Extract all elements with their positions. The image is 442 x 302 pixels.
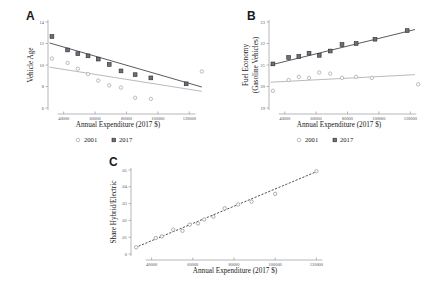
- data-point-share-hybrid-electric: [236, 203, 239, 206]
- data-point-2001: [76, 67, 79, 70]
- fit-line-2017: [271, 30, 415, 65]
- data-point-2017: [86, 54, 90, 58]
- x-tick-label: 40000: [279, 116, 291, 121]
- y-tick-label: 0: [125, 252, 128, 257]
- panel-a-plot-area: 68101214400006000080000100000120000: [40, 20, 204, 121]
- data-point-2017: [287, 56, 291, 60]
- data-point-2017: [271, 62, 275, 66]
- panel-a-legend: 2001 2017: [76, 136, 133, 143]
- legend-label-2001: 2001: [84, 136, 97, 143]
- panel-b-legend: 2001 2017: [297, 136, 354, 143]
- data-point-2001: [200, 70, 203, 73]
- data-point-2017: [297, 55, 301, 59]
- panel-c: C 0.01.02.03.04.054000060000800001000001…: [75, 148, 365, 302]
- data-point-2001: [108, 84, 111, 87]
- panel-a-svg: A 68101214400006000080000100000120000 An…: [0, 0, 221, 151]
- x-tick-label: 80000: [342, 116, 354, 121]
- data-point-2001: [287, 78, 290, 81]
- panel-b-letter: B: [247, 9, 256, 23]
- fit-line-2001: [50, 67, 202, 91]
- data-point-2017: [373, 37, 377, 41]
- data-point-2017: [340, 43, 344, 47]
- legend-marker-2017-icon: [112, 138, 116, 142]
- data-point-2017: [50, 35, 54, 39]
- data-point-2017: [119, 69, 123, 73]
- panel-b-plot-area: 1920212223400006000080000100000120000: [261, 20, 420, 121]
- legend-marker-2001-icon: [297, 138, 301, 142]
- data-point-2001: [133, 96, 136, 99]
- data-point-share-hybrid-electric: [172, 228, 175, 231]
- panel-b-yaxis-title-line2: (Gasoline Vehicles): [252, 36, 260, 93]
- y-tick-label: .04: [122, 184, 128, 189]
- data-point-2001: [86, 72, 89, 75]
- data-point-share-hybrid-electric: [188, 223, 191, 226]
- x-tick-label: 120000: [310, 262, 324, 267]
- y-tick-label: .02: [122, 218, 128, 223]
- y-tick-label: .01: [122, 235, 128, 240]
- x-tick-label: 100000: [372, 116, 386, 121]
- x-tick-label: 100000: [151, 116, 165, 121]
- data-point-2001: [416, 83, 419, 86]
- y-tick-label: 23: [261, 20, 266, 25]
- panel-c-letter: C: [109, 155, 118, 169]
- data-point-share-hybrid-electric: [223, 207, 226, 210]
- data-point-2001: [318, 71, 321, 74]
- legend-label-2017: 2017: [119, 136, 133, 143]
- panel-a-xaxis-title: Annual Expenditure (2017 $): [76, 121, 161, 129]
- data-point-2017: [354, 42, 358, 46]
- data-point-share-hybrid-electric: [212, 215, 215, 218]
- panel-b-xaxis-title: Annual Expenditure (2017 $): [297, 121, 382, 129]
- data-point-2017: [184, 82, 188, 86]
- x-tick-label: 40000: [146, 262, 158, 267]
- data-point-2001: [149, 97, 152, 100]
- data-point-2017: [96, 57, 100, 61]
- x-tick-label: 80000: [121, 116, 133, 121]
- legend-label-2017: 2017: [340, 136, 354, 143]
- x-tick-label: 80000: [229, 262, 241, 267]
- data-point-share-hybrid-electric: [202, 218, 205, 221]
- y-tick-label: .05: [122, 168, 128, 173]
- data-point-2001: [97, 79, 100, 82]
- y-tick-label: 20: [261, 84, 266, 89]
- panel-a-letter: A: [26, 9, 35, 23]
- panel-a-yaxis-title: Vehicle Age: [27, 48, 35, 83]
- data-point-2001: [119, 86, 122, 89]
- data-point-2001: [370, 76, 373, 79]
- x-tick-label: 100000: [269, 262, 283, 267]
- x-tick-label: 120000: [404, 116, 418, 121]
- legend-marker-2001-icon: [76, 138, 80, 142]
- data-point-2017: [66, 48, 70, 52]
- y-tick-label: 19: [261, 106, 266, 111]
- data-point-share-hybrid-electric: [274, 192, 277, 195]
- data-point-share-hybrid-electric: [196, 222, 199, 225]
- panel-a: A 68101214400006000080000100000120000 An…: [0, 0, 221, 151]
- data-point-2001: [271, 89, 274, 92]
- x-tick-label: 60000: [311, 116, 323, 121]
- x-tick-label: 40000: [58, 116, 70, 121]
- panel-b: B 1920212223400006000080000100000120000 …: [221, 0, 442, 151]
- y-tick-label: 6: [42, 106, 45, 111]
- data-point-2017: [149, 76, 153, 80]
- x-tick-label: 120000: [183, 116, 197, 121]
- y-tick-label: 22: [261, 41, 265, 46]
- x-tick-label: 60000: [187, 262, 199, 267]
- data-point-2001: [297, 75, 300, 78]
- data-point-share-hybrid-electric: [160, 235, 163, 238]
- data-point-share-hybrid-electric: [181, 229, 184, 232]
- figure-container: A 68101214400006000080000100000120000 An…: [0, 0, 442, 302]
- data-point-2017: [107, 63, 111, 67]
- y-tick-label: .03: [122, 201, 128, 206]
- panel-c-svg: C 0.01.02.03.04.054000060000800001000001…: [75, 148, 365, 302]
- data-point-2001: [329, 72, 332, 75]
- panel-b-yaxis-title-line1: Fuel Economy: [242, 44, 250, 87]
- panel-c-yaxis-title: Share Hybrid/Electric: [110, 181, 118, 244]
- data-point-share-hybrid-electric: [315, 170, 318, 173]
- data-point-2001: [50, 57, 53, 60]
- data-point-2017: [405, 29, 409, 33]
- data-point-2017: [317, 53, 321, 57]
- x-tick-label: 60000: [90, 116, 102, 121]
- y-tick-label: 8: [42, 84, 45, 89]
- data-point-2001: [66, 61, 69, 64]
- y-tick-label: 21: [261, 63, 265, 68]
- data-point-share-hybrid-electric: [134, 246, 137, 249]
